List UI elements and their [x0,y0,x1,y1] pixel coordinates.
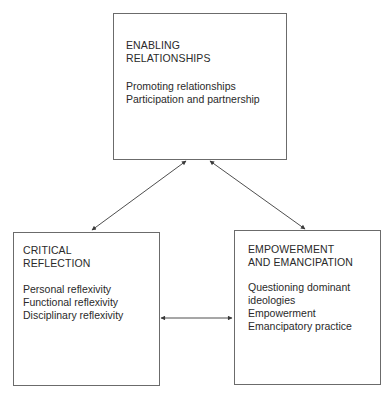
node-items: Questioning dominant ideologies Empowerm… [248,281,352,333]
node-item: Emancipatory practice [248,320,352,333]
node-item: Participation and partnership [126,93,260,106]
node-critical-reflection: CRITICAL REFLECTION Personal reflexivity… [13,232,160,386]
node-items: Promoting relationships Participation an… [126,80,260,106]
node-empowerment-emancipation: EMPOWERMENT AND EMANCIPATION Questioning… [234,230,381,385]
node-item: Disciplinary reflexivity [23,309,123,322]
node-title: ENABLING RELATIONSHIPS [126,39,211,65]
node-items: Personal reflexivity Functional reflexiv… [23,283,123,322]
node-item: Promoting relationships [126,80,260,93]
node-title: CRITICAL REFLECTION [23,244,91,270]
node-item: Questioning dominant [248,281,352,294]
node-item: Functional reflexivity [23,296,123,309]
node-item: ideologies [248,294,352,307]
node-enabling-relationships: ENABLING RELATIONSHIPS Promoting relatio… [113,13,287,160]
node-title: EMPOWERMENT AND EMANCIPATION [248,243,353,269]
arrow-enabling-empowerment [210,161,305,229]
arrow-enabling-critical [92,161,186,230]
node-item: Empowerment [248,307,352,320]
node-item: Personal reflexivity [23,283,123,296]
